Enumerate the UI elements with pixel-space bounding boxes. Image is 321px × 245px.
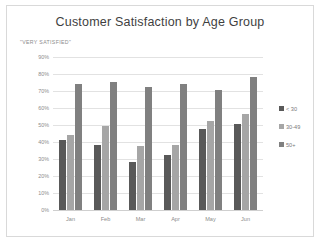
bar-30-49: [137, 146, 144, 211]
y-axis-tick-label: 50%: [38, 122, 49, 128]
bar--30: [234, 124, 241, 211]
y-axis-tick-label: 90%: [38, 54, 49, 60]
y-axis-tick-label: 70%: [38, 88, 49, 94]
y-axis-tick-label: 60%: [38, 105, 49, 111]
bar-50-: [250, 77, 257, 211]
bar-50-: [75, 84, 82, 212]
x-axis-tick-label: May: [193, 216, 228, 222]
bar--30: [94, 145, 101, 211]
chart-title: Customer Satisfaction by Age Group: [7, 15, 313, 29]
x-axis-tick-label: Feb: [88, 216, 123, 222]
bar-50-: [215, 90, 222, 211]
x-axis-tick-label: Jun: [228, 216, 263, 222]
bar-group: Apr: [158, 58, 193, 211]
y-axis-tick-label: 20%: [38, 173, 49, 179]
chart-legend: < 3030-4950+: [279, 105, 321, 159]
x-axis-tick-label: Apr: [158, 216, 193, 222]
legend-swatch-icon: [279, 124, 284, 129]
y-axis-tick-label: 80%: [38, 71, 49, 77]
bar-group: Mar: [123, 58, 158, 211]
legend-label: 30-49: [286, 124, 300, 130]
legend-item[interactable]: 30-49: [279, 123, 321, 130]
y-axis-tick-label: 10%: [38, 190, 49, 196]
y-axis-tick-label: 30%: [38, 156, 49, 162]
legend-swatch-icon: [279, 106, 284, 111]
y-axis-tick-label: 40%: [38, 139, 49, 145]
bar--30: [59, 140, 66, 211]
bar-50-: [180, 84, 187, 212]
x-axis-tick-label: Jan: [53, 216, 88, 222]
bar-30-49: [172, 145, 179, 211]
bar-30-49: [102, 126, 109, 211]
plot-area: 0%10%20%30%40%50%60%70%80%90% JanFebMarA…: [53, 58, 263, 211]
bar-group: Jun: [228, 58, 263, 211]
bar--30: [164, 155, 171, 211]
chart-frame: Customer Satisfaction by Age Group "VERY…: [6, 5, 314, 237]
bar-group: Jan: [53, 58, 88, 211]
bar--30: [199, 129, 206, 211]
bar--30: [129, 162, 136, 211]
bar-30-49: [207, 121, 214, 211]
bar-30-49: [242, 114, 249, 211]
legend-item[interactable]: < 30: [279, 105, 321, 112]
bar-50-: [110, 82, 117, 211]
bar-30-49: [67, 135, 74, 212]
x-axis-tick-label: Mar: [123, 216, 158, 222]
bar-50-: [145, 87, 152, 211]
legend-label: 50+: [286, 142, 296, 148]
legend-label: < 30: [286, 106, 297, 112]
bar-group: Feb: [88, 58, 123, 211]
axis-baseline: [53, 210, 263, 211]
bar-group: May: [193, 58, 228, 211]
legend-swatch-icon: [279, 142, 284, 147]
legend-item[interactable]: 50+: [279, 141, 321, 148]
chart-subtitle: "VERY SATISFIED": [20, 39, 71, 45]
y-axis-tick-label: 0%: [41, 207, 49, 213]
